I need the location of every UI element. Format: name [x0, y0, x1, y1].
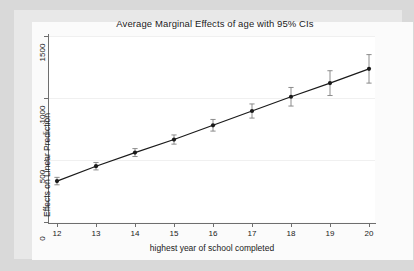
data-point-marker	[211, 123, 215, 127]
data-point-marker	[133, 150, 137, 154]
data-point-marker	[250, 109, 254, 113]
series-overlay	[0, 0, 414, 271]
data-point-marker	[367, 67, 371, 71]
data-point-marker	[94, 164, 98, 168]
data-point-marker	[172, 137, 176, 141]
data-point-marker	[55, 179, 59, 183]
data-point-marker	[289, 95, 293, 99]
chart-figure: Average Marginal Effects of age with 95%…	[0, 0, 414, 271]
data-point-marker	[328, 81, 332, 85]
